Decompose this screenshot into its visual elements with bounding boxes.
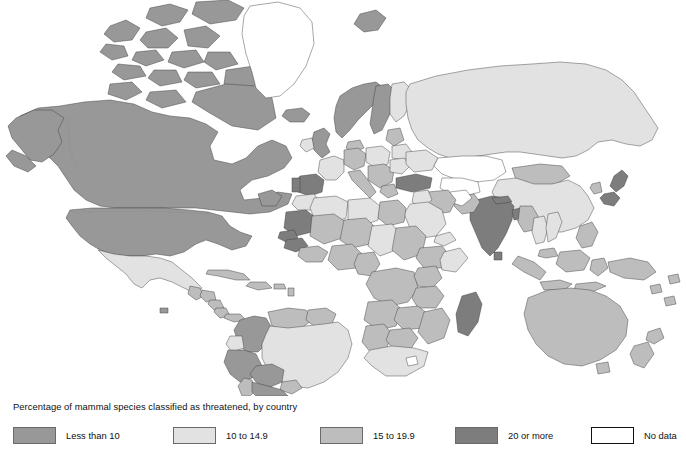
legend-swatch-15-to-19-9 [320,427,363,444]
world-map-panel [0,0,686,396]
legend-swatch-less-than-10 [13,427,56,444]
legend-swatch-no-data [591,427,634,444]
legend-swatch-20-or-more [455,427,498,444]
legend-item-20-or-more[interactable]: 20 or more [455,423,553,447]
choropleth-world-map [0,0,686,396]
legend-item-no-data[interactable]: No data [591,423,677,447]
legend-swatch-10-to-14-9 [173,427,216,444]
country-tasmania [596,362,610,374]
legend-item-15-to-19-9[interactable]: 15 to 19.9 [320,423,415,447]
country-galapagos [160,308,168,313]
legend-label-no-data: No data [644,430,677,441]
legend-area: Percentage of mammal species classified … [0,396,686,455]
figure-caption: Percentage of mammal species classified … [13,401,297,412]
legend-label-15-to-19-9: 15 to 19.9 [373,430,415,441]
legend-label-less-than-10: Less than 10 [66,430,120,441]
country-sri-lanka [494,252,502,260]
legend-label-20-or-more: 20 or more [508,430,553,441]
legend-item-less-than-10[interactable]: Less than 10 [13,423,120,447]
country-pacific-island [668,274,680,284]
country-lesser-antilles [288,288,294,296]
country-lesotho [406,356,418,366]
country-portugal [292,178,300,192]
country-pacific-island [664,296,676,306]
map-legend: Less than 10 10 to 14.9 15 to 19.9 20 or… [13,423,678,449]
legend-label-10-to-14-9: 10 to 14.9 [226,430,268,441]
country-pacific-island [650,284,662,294]
legend-item-10-to-14-9[interactable]: 10 to 14.9 [173,423,268,447]
country-puerto-rico [274,284,286,289]
